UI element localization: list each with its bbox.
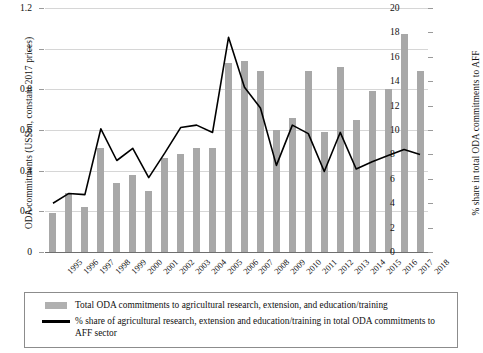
y-tick-dash-left	[39, 171, 44, 172]
legend-item-line: % share of agricultural research, extens…	[33, 315, 449, 339]
legend-item-bars: Total ODA commitments to agricultural re…	[33, 299, 449, 311]
x-tick-1999: 1999	[129, 257, 148, 276]
legend-label-line: % share of agricultural research, extens…	[75, 315, 449, 339]
y-tick-dash-right	[428, 130, 433, 131]
y-tick-left-0.8: 0.8	[0, 84, 32, 94]
y-tick-dash-right	[428, 228, 433, 229]
y-tick-dash-right	[428, 57, 433, 58]
legend-line-swatch-icon	[42, 320, 70, 323]
y-tick-left-0.2: 0.2	[0, 206, 32, 216]
plot-area	[45, 8, 428, 252]
y-tick-dash-left	[39, 211, 44, 212]
chart-figure: ODA commitments (US$bn, constant 2017 pr…	[0, 0, 483, 353]
y-tick-dash-right	[428, 252, 433, 253]
y-tick-dash-right	[428, 81, 433, 82]
y-tick-dash-left	[39, 49, 44, 50]
x-tick-2004: 2004	[209, 257, 228, 276]
y-tick-dash-right	[428, 154, 433, 155]
x-tick-2003: 2003	[193, 257, 212, 276]
x-tick-2015: 2015	[384, 257, 403, 276]
chart-legend: Total ODA commitments to agricultural re…	[24, 292, 458, 348]
y-tick-left-1.2: 1.2	[0, 3, 32, 13]
y-tick-dash-right	[428, 203, 433, 204]
y-tick-dash-right	[428, 8, 433, 9]
x-axis-labels: 1995199619971998199920002001200220032004…	[45, 252, 428, 292]
y-tick-left-0.6: 0.6	[0, 125, 32, 135]
share-line-path	[53, 37, 420, 203]
y-tick-dash-left	[39, 8, 44, 9]
x-tick-2005: 2005	[225, 257, 244, 276]
x-tick-1996: 1996	[81, 257, 100, 276]
legend-label-bars: Total ODA commitments to agricultural re…	[75, 299, 388, 311]
y-tick-right-16: 16	[390, 52, 430, 62]
y-tick-right-20: 20	[390, 3, 430, 13]
x-tick-1997: 1997	[97, 257, 116, 276]
y-tick-left-1: 1	[0, 44, 32, 54]
y-tick-right-4: 4	[390, 198, 430, 208]
x-tick-2018: 2018	[432, 257, 451, 276]
y-tick-left-0.4: 0.4	[0, 166, 32, 176]
y-tick-dash-left	[39, 89, 44, 90]
x-tick-1995: 1995	[65, 257, 84, 276]
y-tick-right-10: 10	[390, 125, 430, 135]
x-tick-2013: 2013	[352, 257, 371, 276]
x-tick-2016: 2016	[400, 257, 419, 276]
x-tick-2014: 2014	[368, 257, 387, 276]
y-tick-dash-left	[39, 252, 44, 253]
y-tick-right-12: 12	[390, 101, 430, 111]
y-tick-right-2: 2	[390, 223, 430, 233]
x-tick-1998: 1998	[113, 257, 132, 276]
x-tick-2017: 2017	[416, 257, 435, 276]
y-tick-left-0: 0	[0, 247, 32, 257]
y-tick-dash-right	[428, 179, 433, 180]
x-tick-2001: 2001	[161, 257, 180, 276]
y-axis-right-title: % share in total ODA commitments to AFF	[471, 18, 481, 248]
y-tick-dash-right	[428, 32, 433, 33]
y-tick-right-14: 14	[390, 76, 430, 86]
x-tick-2011: 2011	[320, 257, 339, 276]
y-tick-right-6: 6	[390, 174, 430, 184]
line-series	[45, 8, 428, 252]
x-tick-2002: 2002	[177, 257, 196, 276]
y-tick-dash-left	[39, 130, 44, 131]
x-tick-2000: 2000	[145, 257, 164, 276]
y-tick-right-8: 8	[390, 149, 430, 159]
legend-bar-swatch-icon	[45, 302, 67, 309]
y-tick-dash-right	[428, 106, 433, 107]
y-tick-right-18: 18	[390, 27, 430, 37]
